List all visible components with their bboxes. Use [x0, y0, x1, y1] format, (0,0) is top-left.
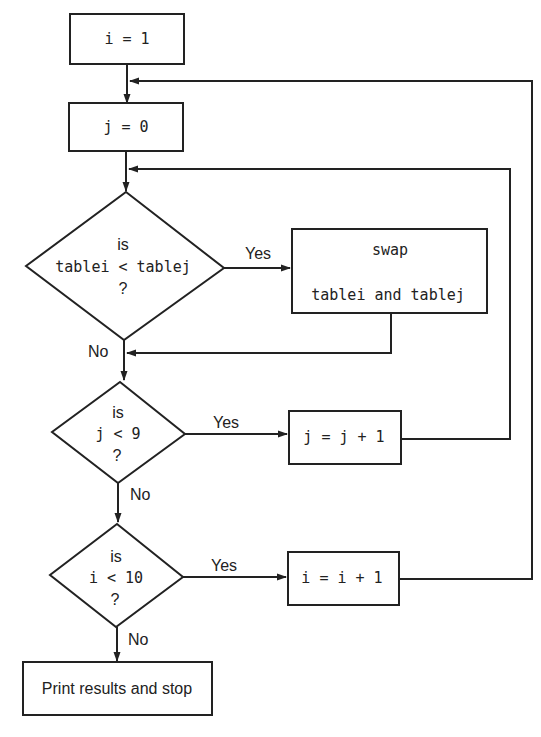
node-check-j-line2: j < 9	[95, 425, 140, 443]
node-check-i-line3: ?	[111, 591, 120, 608]
node-compare-line1: is	[117, 236, 129, 253]
node-check-i-line1: is	[110, 548, 122, 565]
node-init-j-label: j = 0	[103, 118, 148, 136]
node-check-j-line3: ?	[113, 447, 122, 464]
node-init-i-label: i = 1	[104, 30, 149, 48]
node-end-label: Print results and stop	[42, 680, 192, 697]
node-check-i-line2: i < 10	[89, 569, 143, 587]
node-inc-i-label: i = i + 1	[301, 569, 382, 587]
node-swap: swap tablei and tablej	[292, 229, 487, 313]
node-compare-line3: ?	[119, 280, 128, 297]
node-check-j-decision: is j < 9 ?	[52, 382, 185, 483]
node-swap-line1: swap	[372, 241, 408, 259]
node-inc-i: i = i + 1	[288, 552, 399, 605]
node-compare-line2: tablei < tablej	[55, 258, 190, 276]
edge-label-check-j-no: No	[130, 486, 151, 503]
node-inc-j: j = j + 1	[289, 411, 401, 464]
node-init-j: j = 0	[69, 103, 183, 151]
node-init-i: i = 1	[70, 14, 184, 64]
edge-inc-i-loop-to-init-j	[130, 81, 532, 579]
node-check-j-line1: is	[112, 404, 124, 421]
edge-label-compare-no: No	[88, 343, 109, 360]
node-check-i-decision: is i < 10 ?	[50, 524, 183, 627]
edge-label-check-i-no: No	[128, 631, 149, 648]
node-compare-decision: is tablei < tablej ?	[26, 192, 224, 340]
flowchart-canvas: i = 1 j = 0 is tablei < tablej ? Yes No …	[0, 0, 541, 737]
node-end: Print results and stop	[23, 662, 212, 715]
edge-label-check-j-yes: Yes	[213, 414, 239, 431]
node-swap-line2: tablei and tablej	[311, 286, 465, 304]
edge-swap-to-check-j	[127, 313, 391, 353]
edge-label-compare-yes: Yes	[245, 245, 271, 262]
node-inc-j-label: j = j + 1	[303, 428, 384, 446]
edge-label-check-i-yes: Yes	[211, 557, 237, 574]
